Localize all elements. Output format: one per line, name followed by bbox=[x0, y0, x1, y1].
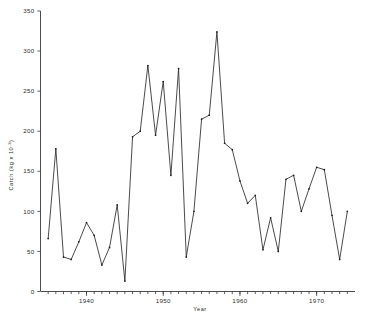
data-point bbox=[139, 130, 141, 132]
data-point bbox=[155, 134, 157, 136]
data-point bbox=[339, 259, 341, 261]
catch-series-markers bbox=[47, 31, 348, 282]
data-point bbox=[216, 31, 218, 33]
data-point bbox=[78, 241, 80, 243]
data-point bbox=[116, 204, 118, 206]
data-point bbox=[178, 68, 180, 70]
chart-svg: 050100150200250300350 1940195019601970 C… bbox=[0, 0, 371, 325]
data-point bbox=[147, 65, 149, 67]
data-point bbox=[270, 217, 272, 219]
data-point bbox=[293, 174, 295, 176]
x-axis-tick-label: 1960 bbox=[232, 297, 247, 304]
data-point bbox=[201, 118, 203, 120]
x-axis-tick-label: 1940 bbox=[79, 297, 94, 304]
data-point bbox=[185, 256, 187, 258]
data-point bbox=[47, 238, 49, 240]
data-point bbox=[109, 247, 111, 249]
data-point bbox=[132, 136, 134, 138]
data-point bbox=[224, 142, 226, 144]
data-point bbox=[308, 188, 310, 190]
data-point bbox=[262, 249, 264, 251]
data-point bbox=[331, 215, 333, 217]
y-axis-tick-label: 200 bbox=[23, 127, 35, 134]
y-axis-tick-label: 50 bbox=[27, 248, 35, 255]
y-axis-tick-labels: 050100150200250300350 bbox=[23, 7, 35, 295]
data-point bbox=[239, 180, 241, 182]
data-point bbox=[101, 264, 103, 266]
y-axis-tick-label: 100 bbox=[23, 208, 35, 215]
data-point bbox=[346, 211, 348, 213]
y-axis-tick-label: 0 bbox=[31, 288, 35, 295]
data-point bbox=[300, 211, 302, 213]
x-axis-tick-labels: 1940195019601970 bbox=[79, 297, 324, 304]
x-axis-tick-label: 1970 bbox=[309, 297, 324, 304]
data-point bbox=[277, 251, 279, 253]
data-point bbox=[193, 211, 195, 213]
catch-series-line bbox=[48, 32, 347, 281]
data-point bbox=[231, 149, 233, 151]
data-point bbox=[208, 114, 210, 116]
data-point bbox=[254, 194, 256, 196]
catch-vs-year-chart: 050100150200250300350 1940195019601970 C… bbox=[0, 0, 371, 325]
data-point bbox=[63, 256, 65, 258]
y-axis-tick-label: 300 bbox=[23, 47, 35, 54]
svg-text:Catch (kg x 10-3): Catch (kg x 10-3) bbox=[7, 139, 14, 190]
data-point bbox=[70, 259, 72, 261]
y-axis-ticks bbox=[37, 11, 40, 292]
x-axis-tick-label: 1950 bbox=[156, 297, 171, 304]
y-axis-tick-label: 150 bbox=[23, 167, 35, 174]
data-point bbox=[323, 169, 325, 171]
data-point bbox=[124, 280, 126, 282]
data-point bbox=[93, 235, 95, 237]
y-axis-title-text: Catch (kg x 10 bbox=[8, 147, 14, 191]
data-point bbox=[162, 81, 164, 83]
y-axis-tick-label: 250 bbox=[23, 87, 35, 94]
y-axis-title-close: ) bbox=[8, 139, 14, 141]
y-axis-title: Catch (kg x 10-3) bbox=[7, 139, 14, 190]
data-point bbox=[247, 202, 249, 204]
data-point bbox=[170, 174, 172, 176]
data-point bbox=[55, 148, 57, 150]
data-point bbox=[285, 178, 287, 180]
y-axis-tick-label: 350 bbox=[23, 7, 35, 14]
x-axis-title: Year bbox=[193, 306, 207, 312]
data-point bbox=[86, 222, 88, 224]
data-point bbox=[316, 166, 318, 168]
